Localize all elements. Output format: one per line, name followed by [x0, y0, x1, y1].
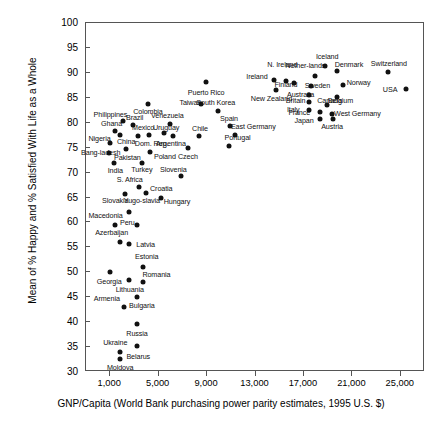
- x-tick-mark: [255, 371, 256, 376]
- data-point: [317, 110, 322, 115]
- data-point: [145, 101, 150, 106]
- data-point: [137, 184, 142, 189]
- point-label: Nigeria: [88, 135, 110, 143]
- point-label: Belgium: [328, 97, 353, 105]
- point-label: Switzerland: [371, 60, 407, 68]
- data-point: [126, 278, 131, 283]
- data-point: [121, 304, 126, 309]
- data-point: [306, 99, 311, 104]
- y-axis-title: Mean of % Happy and % Satisfied With Lif…: [27, 51, 38, 311]
- point-label: Ukraine: [103, 339, 127, 347]
- point-label: Moldova: [107, 364, 133, 372]
- point-label: Latvia: [136, 241, 155, 249]
- point-label: Portugal: [225, 134, 251, 142]
- data-point: [118, 356, 123, 361]
- point-label: Macedonia: [88, 212, 122, 220]
- point-label: New Zealand: [251, 95, 292, 103]
- point-label: Taiwan: [179, 99, 201, 107]
- data-point: [227, 143, 232, 148]
- data-point: [403, 87, 408, 92]
- data-point: [126, 242, 131, 247]
- point-label: Denmark: [335, 61, 363, 69]
- point-label: Belarus: [126, 353, 150, 361]
- point-label: Slovakia: [102, 197, 128, 205]
- point-label: Estonia: [135, 253, 158, 261]
- y-tick-mark: [85, 97, 90, 98]
- x-tick-mark: [400, 371, 401, 376]
- y-tick-label: 35: [44, 341, 78, 352]
- data-point: [340, 83, 345, 88]
- y-tick-mark: [85, 72, 90, 73]
- y-tick-label: 100: [44, 17, 78, 28]
- point-label: Philippines: [94, 111, 128, 119]
- y-tick-label: 55: [44, 241, 78, 252]
- x-tick-label: 25,000: [370, 378, 430, 388]
- point-label: USA: [383, 86, 397, 94]
- data-point: [196, 133, 201, 138]
- y-tick-label: 70: [44, 166, 78, 177]
- point-label: Pakistan: [114, 154, 141, 162]
- point-label: Ghana: [101, 120, 122, 128]
- point-label: Turkey: [131, 166, 152, 174]
- y-tick-mark: [85, 172, 90, 173]
- point-label: Armenia: [94, 295, 120, 303]
- point-label: Italy: [287, 106, 300, 114]
- point-label: Bulgaria: [129, 302, 155, 310]
- data-point: [126, 209, 131, 214]
- data-point: [147, 132, 152, 137]
- point-label: Argentina: [156, 140, 186, 148]
- point-label: Nether-​lands: [284, 63, 326, 71]
- point-label: India: [108, 167, 123, 175]
- y-tick-mark: [85, 47, 90, 48]
- data-point: [317, 117, 322, 122]
- point-label: Spain: [220, 115, 238, 123]
- point-label: Azerbaijan: [95, 229, 128, 237]
- y-tick-mark: [85, 346, 90, 347]
- point-label: Poland: [154, 153, 176, 161]
- point-label: Romania: [142, 271, 170, 279]
- y-tick-label: 60: [44, 216, 78, 227]
- point-label: Iceland: [316, 53, 338, 61]
- point-label: Hungary: [164, 198, 190, 206]
- point-label: South Korea: [196, 99, 235, 107]
- data-point: [113, 128, 118, 133]
- point-label: S. Africa: [117, 176, 143, 184]
- x-tick-mark: [206, 371, 207, 376]
- data-point: [216, 108, 221, 113]
- point-label: Finland: [275, 81, 298, 89]
- y-tick-mark: [85, 221, 90, 222]
- point-label: Mexico: [132, 124, 154, 132]
- data-point: [118, 350, 123, 355]
- x-tick-mark: [158, 371, 159, 376]
- data-point: [108, 269, 113, 274]
- data-point: [185, 146, 190, 151]
- data-point: [204, 79, 209, 84]
- y-tick-label: 85: [44, 91, 78, 102]
- y-tick-label: 65: [44, 191, 78, 202]
- data-point: [385, 70, 390, 75]
- data-point: [113, 223, 118, 228]
- data-point: [135, 222, 140, 227]
- point-label: Colombia: [133, 108, 163, 116]
- y-tick-label: 50: [44, 266, 78, 277]
- y-tick-mark: [85, 122, 90, 123]
- point-label: Czech: [178, 153, 198, 161]
- y-tick-label: 95: [44, 41, 78, 52]
- x-axis-title: GNP/Capita (World Bank purchasing power …: [0, 398, 442, 409]
- y-tick-label: 45: [44, 291, 78, 302]
- point-label: Croatia: [150, 185, 172, 193]
- point-label: Peru: [120, 219, 135, 227]
- point-label: Russia: [126, 330, 147, 338]
- data-point: [135, 294, 140, 299]
- y-tick-mark: [85, 197, 90, 198]
- x-tick-mark: [351, 371, 352, 376]
- y-tick-label: 90: [44, 66, 78, 77]
- point-label: West Germany: [334, 110, 381, 118]
- point-label: Sweden: [305, 82, 330, 90]
- data-point: [178, 174, 183, 179]
- data-point: [148, 150, 153, 155]
- y-tick-mark: [85, 296, 90, 297]
- point-label: Lithuania: [116, 286, 144, 294]
- point-label: China: [117, 138, 135, 146]
- y-tick-mark: [85, 321, 90, 322]
